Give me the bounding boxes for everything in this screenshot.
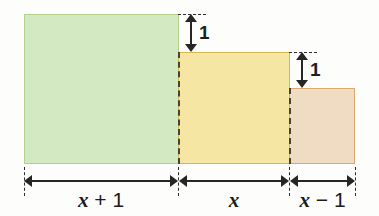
width-label-orange: x − 1 bbox=[290, 189, 355, 211]
arrow-shaft bbox=[29, 180, 173, 182]
arrowhead-right-icon bbox=[170, 175, 178, 187]
horizontal-dimension-arrow-orange bbox=[290, 175, 355, 187]
operator: + bbox=[88, 188, 112, 211]
vertical-dimension-label-2: 1 bbox=[310, 60, 321, 79]
variable-x: x bbox=[78, 188, 89, 212]
operand: 1 bbox=[334, 188, 346, 211]
vertical-dimension-arrow-2 bbox=[296, 52, 308, 88]
variable-x: x bbox=[229, 188, 240, 212]
arrow-shaft bbox=[190, 19, 192, 47]
vertical-dimension-arrow-1 bbox=[185, 14, 197, 52]
arrowhead-down-icon bbox=[296, 80, 308, 88]
horizontal-dimension-arrow-green bbox=[24, 175, 178, 187]
variable-x: x bbox=[299, 188, 310, 212]
arrow-shaft bbox=[184, 180, 284, 182]
arrowhead-right-icon bbox=[347, 175, 355, 187]
width-label-green: x + 1 bbox=[24, 189, 178, 211]
separator-yellow-orange bbox=[289, 88, 291, 164]
width-label-yellow: x bbox=[179, 189, 289, 211]
separator-green-yellow bbox=[178, 52, 180, 164]
horizontal-dimension-arrow-yellow bbox=[179, 175, 289, 187]
geometry-figure: 1 1 x + 1 x x − 1 bbox=[0, 0, 379, 216]
vertical-dimension-label-1: 1 bbox=[199, 23, 210, 42]
green-rectangle bbox=[24, 14, 179, 164]
orange-rectangle bbox=[289, 88, 355, 164]
arrowhead-right-icon bbox=[281, 175, 289, 187]
dimension-tick-right bbox=[355, 167, 356, 196]
arrowhead-down-icon bbox=[185, 44, 197, 52]
operator: − bbox=[310, 188, 334, 211]
operand: 1 bbox=[112, 188, 124, 211]
yellow-rectangle bbox=[178, 52, 290, 164]
arrow-shaft bbox=[295, 180, 350, 182]
